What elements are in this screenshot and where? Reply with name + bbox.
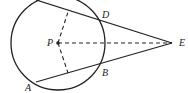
geometry-diagram: P D E B A [0, 0, 188, 93]
circle [11, 0, 105, 90]
perpendicular-upper [58, 12, 68, 43]
label-A: A [25, 83, 31, 93]
diagram-canvas [0, 0, 188, 93]
label-D: D [102, 10, 109, 20]
perpendicular-lower [58, 43, 68, 73]
label-E: E [179, 38, 185, 48]
label-B: B [102, 68, 108, 78]
center-point [56, 41, 60, 45]
label-P: P [47, 38, 53, 48]
